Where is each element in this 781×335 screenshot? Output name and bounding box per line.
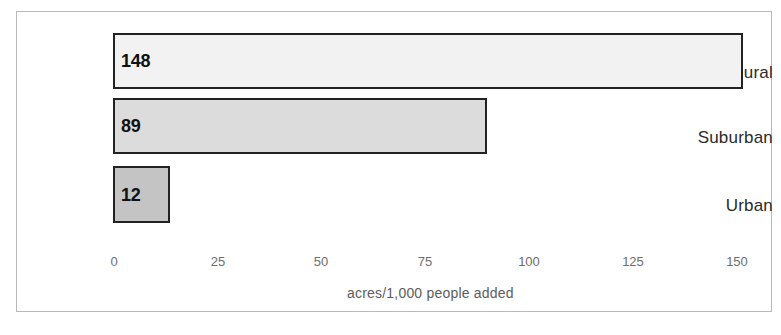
x-tick-label-0: 0	[84, 254, 144, 269]
x-tick-label-50: 50	[291, 254, 351, 269]
x-tick-label-25: 25	[188, 254, 248, 269]
x-tick-label-125: 125	[603, 254, 663, 269]
bar-rural: 148	[113, 33, 743, 89]
x-tick-label-100: 100	[499, 254, 559, 269]
plot-area: Rural Suburban Urban 148 89 12 0 25 50 7…	[17, 12, 773, 313]
x-tick-label-150: 150	[707, 254, 767, 269]
figure-container: Rural Suburban Urban 148 89 12 0 25 50 7…	[0, 0, 781, 335]
bar-value-rural: 148	[121, 51, 150, 72]
bar-urban: 12	[113, 166, 170, 223]
x-tick-label-75: 75	[395, 254, 455, 269]
chart-frame: Rural Suburban Urban 148 89 12 0 25 50 7…	[16, 11, 772, 312]
bar-suburban: 89	[113, 98, 487, 154]
category-label-suburban: Suburban	[593, 128, 773, 148]
bar-value-urban: 12	[121, 184, 140, 205]
x-axis-title: acres/1,000 people added	[347, 285, 514, 301]
category-label-urban: Urban	[593, 196, 773, 216]
bar-value-suburban: 89	[121, 116, 140, 137]
